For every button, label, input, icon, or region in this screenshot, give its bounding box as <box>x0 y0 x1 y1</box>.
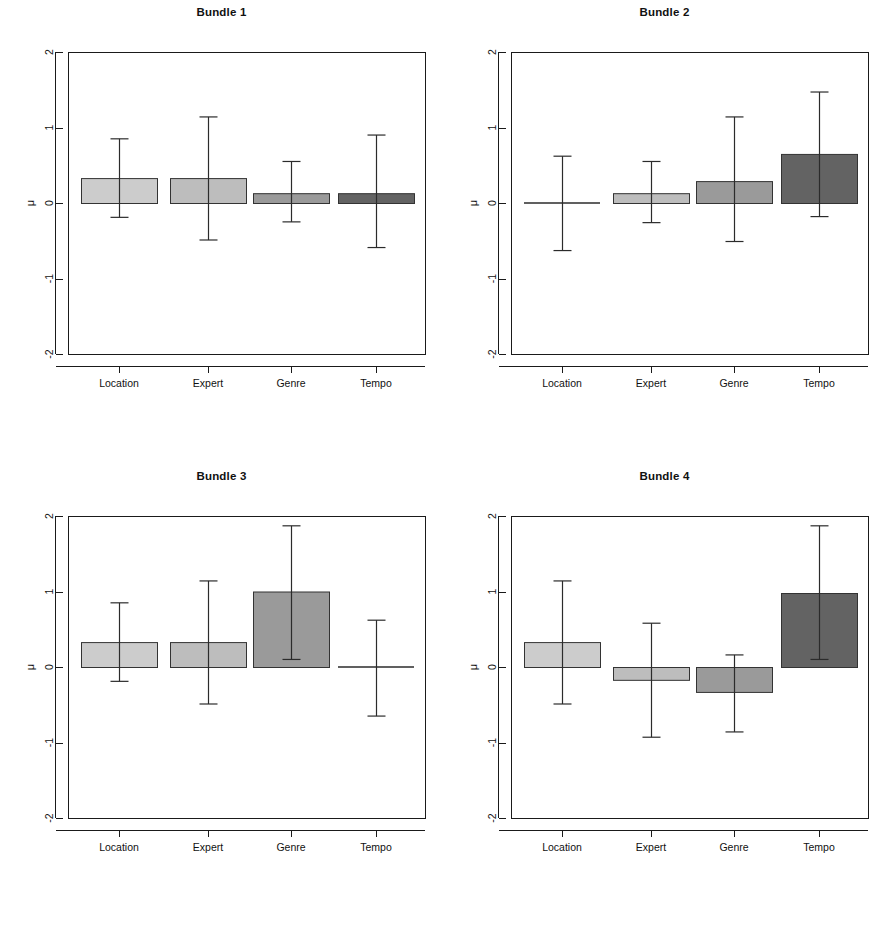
plot-canvas: 210-1-2μLocationExpertGenreTempo <box>443 464 886 928</box>
error-bar-tempo <box>368 135 386 247</box>
x-tick-label-tempo: Tempo <box>803 377 835 389</box>
y-tick-label: -1 <box>43 274 55 283</box>
x-tick-label-tempo: Tempo <box>360 377 392 389</box>
y-axis-title: μ <box>24 200 36 206</box>
x-tick-label-genre: Genre <box>276 377 305 389</box>
error-bar-genre <box>283 161 301 221</box>
plot-canvas: 210-1-2μLocationExpertGenreTempo <box>0 464 443 928</box>
y-tick-label: 1 <box>43 124 55 130</box>
y-tick-label: -2 <box>486 813 498 822</box>
error-bar-expert <box>643 161 661 222</box>
y-tick-label: 2 <box>486 49 498 55</box>
plot-canvas: 210-1-2μLocationExpertGenreTempo <box>0 0 443 464</box>
error-bar-genre <box>726 117 744 242</box>
x-tick-label-location: Location <box>542 841 582 853</box>
chart-panel-bundle-4: Bundle 4210-1-2μLocationExpertGenreTempo <box>443 464 886 928</box>
y-tick-label: -1 <box>43 738 55 747</box>
x-tick-label-tempo: Tempo <box>360 841 392 853</box>
y-tick-label: 2 <box>43 513 55 519</box>
y-tick-label: 1 <box>43 588 55 594</box>
y-tick-label: -1 <box>486 274 498 283</box>
y-tick-label: -2 <box>43 349 55 358</box>
x-tick-label-location: Location <box>99 377 139 389</box>
chart-panel-bundle-3: Bundle 3210-1-2μLocationExpertGenreTempo <box>0 464 443 928</box>
y-axis-title: μ <box>24 664 36 670</box>
y-tick-label: -2 <box>486 349 498 358</box>
x-tick-label-expert: Expert <box>193 841 223 853</box>
y-tick-label: 0 <box>486 200 498 206</box>
chart-panel-bundle-2: Bundle 2210-1-2μLocationExpertGenreTempo <box>443 0 886 464</box>
x-tick-label-location: Location <box>542 377 582 389</box>
x-tick-label-genre: Genre <box>276 841 305 853</box>
y-tick-label: 2 <box>43 49 55 55</box>
x-tick-label-tempo: Tempo <box>803 841 835 853</box>
plot-canvas: 210-1-2μLocationExpertGenreTempo <box>443 0 886 464</box>
y-tick-label: 0 <box>43 664 55 670</box>
error-bar-location <box>111 139 129 218</box>
y-tick-label: 2 <box>486 513 498 519</box>
x-tick-label-expert: Expert <box>193 377 223 389</box>
chart-panel-bundle-1: Bundle 1210-1-2μLocationExpertGenreTempo <box>0 0 443 464</box>
x-tick-label-expert: Expert <box>636 377 666 389</box>
x-tick-label-genre: Genre <box>719 377 748 389</box>
error-bar-genre <box>726 655 744 732</box>
y-axis-title: μ <box>467 664 479 670</box>
multi-panel-bar-chart-figure: Bundle 1210-1-2μLocationExpertGenreTempo… <box>0 0 886 928</box>
y-tick-label: 0 <box>43 200 55 206</box>
y-tick-label: -1 <box>486 738 498 747</box>
error-bar-location <box>111 603 129 682</box>
y-tick-label: 1 <box>486 124 498 130</box>
y-tick-label: 0 <box>486 664 498 670</box>
x-tick-label-expert: Expert <box>636 841 666 853</box>
x-tick-label-genre: Genre <box>719 841 748 853</box>
y-tick-label: 1 <box>486 588 498 594</box>
y-tick-label: -2 <box>43 813 55 822</box>
x-tick-label-location: Location <box>99 841 139 853</box>
error-bar-tempo <box>368 620 386 716</box>
y-axis-title: μ <box>467 200 479 206</box>
